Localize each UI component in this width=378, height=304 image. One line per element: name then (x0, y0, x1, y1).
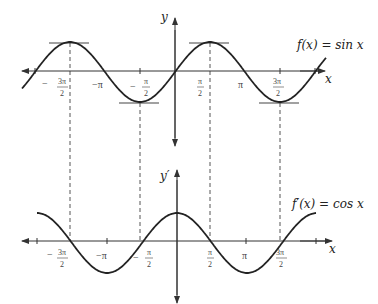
svg-text:2: 2 (147, 260, 151, 269)
derivative-diagram: y x f(x) = sin x −3π2 −π −π2 π2 π 3π2 y′… (0, 0, 378, 304)
svg-text:2: 2 (276, 89, 280, 98)
svg-text:−: − (133, 252, 139, 263)
top-graph: y x f(x) = sin x −3π2 −π −π2 π2 π 3π2 (22, 10, 364, 146)
cosine-label: f′(x) = cos x (291, 197, 364, 211)
svg-text:3π: 3π (276, 248, 284, 257)
svg-text:2: 2 (60, 260, 64, 269)
bottom-graph: y′ x f′(x) = cos x −3π2 −π −π2 π2 π 3π2 (22, 169, 364, 303)
svg-text:2: 2 (144, 89, 148, 98)
svg-text:3π: 3π (58, 77, 66, 86)
top-y-label: y (160, 10, 168, 24)
svg-text:2: 2 (208, 260, 212, 269)
svg-text:2: 2 (198, 89, 202, 98)
bottom-y-label: y′ (159, 169, 170, 183)
svg-text:3π: 3π (273, 77, 281, 86)
sine-label: f(x) = sin x (296, 38, 364, 52)
svg-text:−π: −π (92, 79, 103, 90)
svg-text:π: π (238, 79, 243, 90)
svg-text:π: π (147, 248, 151, 257)
svg-text:2: 2 (60, 89, 64, 98)
svg-text:2: 2 (279, 260, 283, 269)
top-x-label: x (325, 72, 332, 86)
svg-text:−: − (47, 249, 53, 260)
svg-text:π: π (144, 77, 148, 86)
bottom-x-label: x (329, 242, 336, 256)
svg-text:π: π (198, 77, 202, 86)
svg-text:π: π (242, 250, 247, 261)
svg-text:−π: −π (96, 250, 107, 261)
svg-text:π: π (208, 248, 212, 257)
svg-text:−: − (42, 78, 48, 89)
svg-text:3π: 3π (58, 248, 66, 257)
svg-text:−: − (130, 81, 136, 92)
